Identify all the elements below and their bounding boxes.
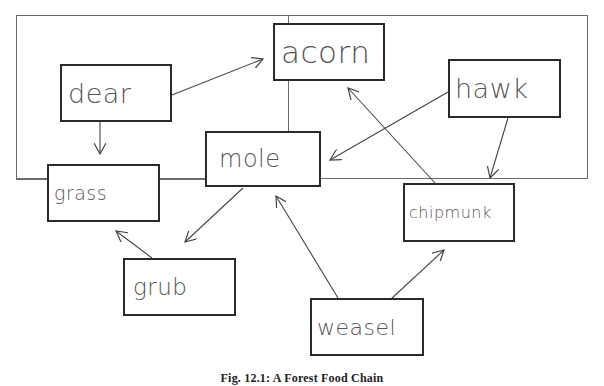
node-label: acorn (281, 34, 370, 70)
node-label: mole (219, 145, 281, 173)
node-acorn: acorn (273, 23, 385, 81)
node-grub: grub (123, 258, 236, 316)
arrow-grub-grass (116, 231, 152, 258)
node-hawk: hawk (448, 59, 561, 118)
node-label: dear (68, 78, 131, 109)
node-label: chipmunk (409, 203, 492, 222)
figure-caption: Fig. 12.1: A Forest Food Chain (0, 371, 604, 386)
node-label: grub (133, 274, 187, 300)
node-label: weasel (317, 315, 396, 340)
node-weasel: weasel (310, 298, 424, 356)
arrow-hawk-chipmunk (490, 118, 508, 178)
node-grass: grass (47, 164, 160, 222)
node-label: grass (54, 182, 107, 204)
node-label: hawk (455, 73, 528, 104)
node-dear: dear (60, 64, 172, 122)
node-chipmunk: chipmunk (403, 183, 515, 242)
node-mole: mole (205, 131, 321, 187)
arrow-weasel-chipmunk (391, 250, 444, 299)
arrow-hawk-mole (330, 92, 448, 160)
arrow-weasel-mole (276, 196, 338, 298)
arrow-chipmunk-acorn (348, 88, 435, 183)
arrow-mole-grub (185, 188, 243, 242)
arrow-dear-acorn (172, 59, 263, 95)
